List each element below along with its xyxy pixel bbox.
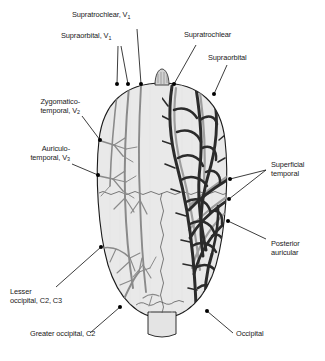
leader-supraorbital-v1-a — [117, 46, 118, 84]
anchor-greater-occipital — [118, 305, 122, 309]
leader-occipital — [207, 311, 233, 333]
anchor-occipital — [205, 309, 209, 313]
leader-supraorbital-v1-b — [121, 46, 128, 84]
head-outline-group — [97, 69, 226, 337]
label-auriculotemporal-v3: Auriculo-temporal, V3 — [0, 145, 70, 162]
label-supraorbital-v1: Supraorbital, V1 — [61, 32, 111, 41]
anchor-posterior-auricular — [226, 219, 230, 223]
label-supraorbital-text: Supraorbital — [208, 53, 247, 62]
leader-supratrochlear — [174, 45, 196, 84]
label-supraorbital: Supraorbital — [208, 54, 247, 63]
leader-zygomaticotemporal — [82, 116, 100, 140]
anchor-superficial-temporal-b — [227, 197, 231, 201]
anchor-auriculotemporal — [96, 173, 100, 177]
label-supraorbital-v1-sub: 1 — [108, 35, 111, 41]
anchor-supraorbital — [212, 92, 216, 96]
anchor-zygomaticotemporal — [98, 138, 102, 142]
label-zygomaticotemporal-line2: temporal, V — [40, 106, 77, 115]
label-greater-occipital: Greater occipital, C2 — [30, 330, 95, 339]
label-greater-occipital-text: Greater occipital, C2 — [30, 329, 95, 338]
anchor-superficial-temporal-a — [228, 177, 232, 181]
leader-auriculotemporal — [72, 164, 98, 175]
label-supratrochlear-v1: Supratrochlear, V1 — [72, 11, 130, 20]
label-lesser-occipital-line2: occipital, C2, C3 — [10, 296, 62, 305]
scalp-nerves-arteries-diagram — [0, 0, 325, 361]
anchor-supratrochlear — [172, 82, 176, 86]
leader-lesser-occipital — [56, 247, 101, 287]
label-zygomaticotemporal-sub: 2 — [77, 109, 80, 115]
label-posterior-auricular-line2: auricular — [271, 248, 298, 257]
label-zygomaticotemporal-v2: Zygomatico-temporal, V2 — [0, 98, 80, 115]
label-auriculotemporal-sub: 3 — [67, 156, 70, 162]
anchor-supratrochlear-v1 — [139, 82, 143, 86]
anchor-supraorbital-v1-a — [115, 82, 119, 86]
label-auriculotemporal-line2: temporal, V — [30, 153, 67, 162]
leader-supratrochlear-v1 — [137, 29, 141, 84]
label-supratrochlear: Supratrochlear — [184, 31, 231, 40]
leader-posterior-auricular — [228, 221, 266, 239]
label-occipital-text: Occipital — [236, 329, 263, 338]
label-superficial-temporal-line2: temporal — [271, 169, 299, 178]
anchor-supraorbital-v1-b — [126, 82, 130, 86]
label-posterior-auricular: Posteriorauricular — [271, 240, 300, 257]
label-supratrochlear-v1-sub: 1 — [127, 14, 130, 20]
label-supraorbital-v1-text: Supraorbital, V — [61, 31, 108, 40]
label-superficial-temporal: Superficialtemporal — [271, 161, 304, 178]
label-supratrochlear-v1-text: Supratrochlear, V — [72, 10, 127, 19]
label-occipital: Occipital — [236, 330, 263, 339]
label-lesser-occipital: Lesseroccipital, C2, C3 — [10, 288, 62, 305]
anchor-lesser-occipital — [99, 245, 103, 249]
label-supratrochlear-text: Supratrochlear — [184, 30, 231, 39]
leader-supraorbital — [214, 65, 227, 94]
